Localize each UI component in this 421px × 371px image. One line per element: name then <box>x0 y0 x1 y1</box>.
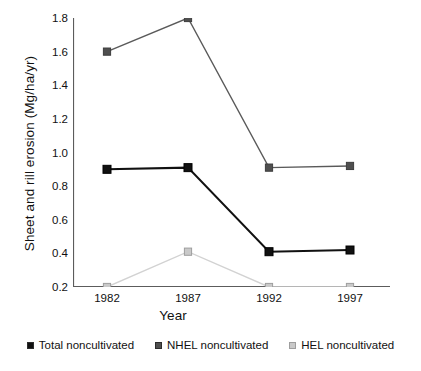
data-point-marker <box>103 165 111 173</box>
y-axis-tick-label: 0.4 <box>32 247 68 259</box>
legend-entry: Total noncultivated <box>27 339 134 351</box>
x-axis-tick-label: 1992 <box>244 292 294 304</box>
data-point-marker <box>265 283 272 287</box>
data-point-marker <box>346 283 353 287</box>
legend-swatch-icon <box>289 342 296 349</box>
legend-swatch-icon <box>155 342 162 349</box>
legend-swatch-icon <box>27 342 34 349</box>
y-axis-tick-label: 1.6 <box>32 46 68 58</box>
y-axis-tick-label: 1.4 <box>32 79 68 91</box>
x-axis-tick-label: 1987 <box>163 292 213 304</box>
chart-canvas <box>73 18 390 287</box>
series-hel-noncultivated <box>103 248 353 287</box>
chart-figure: Sheet and rill erosion (Mg/ha/yr) 1.81.6… <box>0 0 421 371</box>
data-point-marker <box>346 246 354 254</box>
x-axis-title: Year <box>73 308 273 323</box>
legend-entry: NHEL noncultivated <box>155 339 268 351</box>
y-axis-tick-label: 1.0 <box>32 147 68 159</box>
chart-legend: Total noncultivatedNHEL noncultivatedHEL… <box>0 339 421 351</box>
plot-area <box>73 18 390 287</box>
legend-entry: HEL noncultivated <box>289 339 394 351</box>
series-nhel-noncultivated <box>103 18 353 171</box>
data-point-marker <box>184 164 192 172</box>
y-axis-tick-label: 0.8 <box>32 180 68 192</box>
x-axis-tick-label: 1982 <box>82 292 132 304</box>
y-axis-tick-label: 1.2 <box>32 113 68 125</box>
series-total-noncultivated <box>103 164 354 256</box>
data-point-marker <box>184 18 191 22</box>
data-point-marker <box>265 164 272 171</box>
data-point-marker <box>346 162 353 169</box>
data-point-marker <box>265 248 273 256</box>
data-point-marker <box>184 248 191 255</box>
x-axis-tick-label: 1997 <box>325 292 375 304</box>
legend-label: HEL noncultivated <box>301 339 394 351</box>
y-axis-tick-label: 1.8 <box>32 12 68 24</box>
series-line <box>107 18 350 168</box>
y-axis-tick-label: 0.2 <box>32 281 68 293</box>
data-point-marker <box>103 283 110 287</box>
series-line <box>107 168 350 252</box>
y-axis-tick-labels: 1.81.61.41.21.00.80.60.40.2 <box>28 18 68 287</box>
series-line <box>107 252 350 287</box>
legend-label: Total noncultivated <box>39 339 134 351</box>
y-axis-tick-label: 0.6 <box>32 214 68 226</box>
legend-label: NHEL noncultivated <box>167 339 268 351</box>
data-point-marker <box>103 48 110 55</box>
